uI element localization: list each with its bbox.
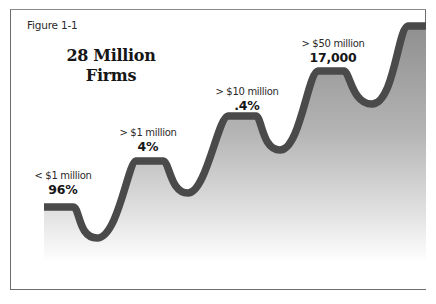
tier-label-over-1m: > $1 million 4% <box>117 126 179 155</box>
tier-value: 4% <box>117 139 179 155</box>
tier-label-over-50m: > $50 million 17,000 <box>292 37 374 66</box>
tier-label-over-10m: > $10 million .4% <box>208 85 286 114</box>
tier-value: 96% <box>30 182 96 198</box>
tier-value: 17,000 <box>292 50 374 66</box>
figure-title: 28 Million Firms <box>52 46 170 86</box>
title-line-2: Firms <box>52 66 170 86</box>
tier-range: > $50 million <box>292 37 374 50</box>
tier-range: > $10 million <box>208 85 286 98</box>
tier-range: > $1 million <box>117 126 179 139</box>
tier-range: < $1 million <box>30 169 96 182</box>
tier-value: .4% <box>208 98 286 114</box>
figure-label: Figure 1-1 <box>27 19 78 31</box>
figure-container: Figure 1-1 28 Million Firms < $1 million… <box>0 0 436 304</box>
title-line-1: 28 Million <box>52 46 170 66</box>
tier-label-under-1m: < $1 million 96% <box>30 169 96 198</box>
